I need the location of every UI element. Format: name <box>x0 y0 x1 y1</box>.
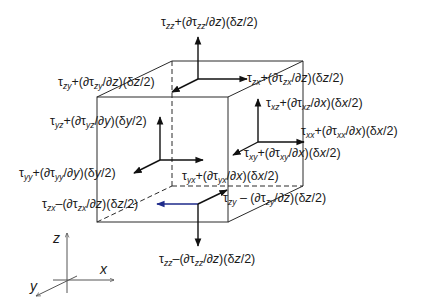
arrow-tau-yy-front <box>134 160 160 173</box>
axis-y <box>36 276 77 296</box>
axis-label-y: y <box>29 278 38 294</box>
label-tau-xx-right: τxx+(∂τxx/∂x)(δx/2) <box>301 124 398 140</box>
label-tau-xy-right: τxy+(∂τxy/∂x)(δx/2) <box>244 146 341 162</box>
label-tau-zy-top: τzy+(∂τzy/∂z)(δz/2) <box>58 75 155 91</box>
axis-label-z: z <box>52 230 60 246</box>
label-tau-yz-front: τyz+(∂τyz/∂y)(δy/2) <box>50 114 147 130</box>
arrow-tau-zy-top <box>172 79 198 92</box>
axis-label-x: x <box>99 261 108 277</box>
label-tau-xz-right: τxz+(∂τxz/∂x)(δx/2) <box>266 96 363 112</box>
label-tau-zy-bottom: τzy – (∂τzy/∂z)(δz/2) <box>223 191 326 207</box>
label-tau-zz-bottom: τzz–(∂τzz/∂z)(δz/2) <box>159 252 255 268</box>
bottom-face-arrows <box>157 190 227 246</box>
top-face-arrows <box>172 37 247 92</box>
label-tau-zz-top: τzz+(∂τzz/∂z)(δz/2) <box>161 15 258 31</box>
label-tau-yy-front: τyy+(∂τyy/∂y)(δy/2) <box>19 166 116 182</box>
label-tau-zx-bottom: τzx–(∂τzx/∂z)(δz/2) <box>42 197 138 213</box>
stress-labels: τzz+(∂τzz/∂z)(δz/2) τzy+(∂τzy/∂z)(δz/2) … <box>19 15 398 268</box>
label-tau-yx-front: τyx+(∂τyx/∂x)(δx/2) <box>182 169 279 185</box>
stress-element-diagram: τzz+(∂τzz/∂z)(δz/2) τzy+(∂τzy/∂z)(δz/2) … <box>0 0 425 308</box>
label-tau-zx-top: τzx+(∂τzx/∂z)(δz/2) <box>247 71 344 87</box>
